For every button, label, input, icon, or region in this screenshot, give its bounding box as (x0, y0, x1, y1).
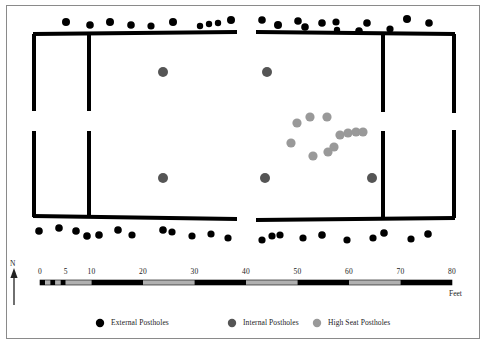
external-posthole-14 (318, 19, 326, 27)
scale-segment-7 (143, 280, 195, 285)
high-seat-posthole-1 (305, 112, 314, 121)
external-posthole-10 (258, 16, 266, 24)
scale-segment-9 (246, 280, 298, 285)
scale-tick-label-70: 70 (397, 267, 405, 276)
internal-posthole-4 (367, 173, 377, 183)
external-posthole-23 (55, 224, 63, 232)
external-posthole-29 (159, 226, 167, 234)
external-posthole-2 (106, 18, 114, 26)
external-posthole-0 (62, 18, 70, 26)
site-plan-figure: 051020304050607080 Feet N External Posth… (0, 0, 488, 345)
wall-bottom-wall-left (33, 216, 237, 219)
legend-symbol-0 (96, 319, 104, 327)
internal-posthole-3 (260, 173, 270, 183)
external-posthole-30 (168, 228, 175, 235)
external-posthole-6 (197, 23, 203, 29)
high-seat-posthole-0 (292, 118, 301, 127)
internal-postholes-layer (158, 67, 377, 183)
external-posthole-8 (215, 20, 221, 26)
external-posthole-40 (369, 234, 376, 241)
external-posthole-24 (72, 227, 80, 235)
scale-segment-8 (195, 280, 247, 285)
scale-segment-2 (50, 280, 55, 285)
external-posthole-36 (276, 231, 283, 238)
scale-tick-label-5: 5 (64, 267, 68, 276)
scale-units-label: Feet (449, 289, 462, 298)
north-arrow-head (10, 268, 17, 278)
internal-posthole-2 (262, 67, 272, 77)
external-postholes-layer (35, 15, 433, 244)
external-posthole-34 (258, 236, 265, 243)
external-posthole-32 (207, 230, 214, 237)
scale-segment-4 (61, 280, 66, 285)
scale-segment-11 (349, 280, 401, 285)
scale-segment-3 (55, 280, 60, 285)
scale-tick-label-60: 60 (345, 267, 353, 276)
high-seat-posthole-8 (343, 128, 352, 137)
external-posthole-22 (35, 227, 43, 235)
scale-tick-label-30: 30 (191, 267, 199, 276)
external-posthole-19 (386, 25, 393, 32)
scale-segment-1 (45, 280, 50, 285)
external-posthole-41 (380, 229, 388, 237)
external-posthole-25 (83, 232, 91, 240)
external-posthole-9 (227, 16, 235, 24)
external-posthole-38 (318, 231, 326, 239)
external-posthole-16 (334, 27, 340, 33)
high-seat-posthole-3 (286, 138, 295, 147)
external-posthole-42 (407, 235, 414, 242)
scale-tick-label-50: 50 (294, 267, 302, 276)
external-posthole-28 (128, 231, 135, 238)
scale-bar-graphic (40, 280, 452, 285)
external-posthole-17 (355, 27, 363, 35)
scale-tick-label-80: 80 (448, 267, 456, 276)
wall-top-wall-left (33, 32, 237, 34)
scale-tick-label-20: 20 (139, 267, 147, 276)
high-seat-posthole-6 (329, 142, 338, 151)
high-seat-postholes-layer (286, 112, 367, 160)
north-arrow-label: N (10, 259, 15, 268)
external-posthole-39 (343, 236, 350, 243)
scale-segment-0 (40, 280, 45, 285)
high-seat-posthole-10 (358, 127, 367, 136)
external-posthole-12 (294, 17, 302, 25)
scale-tick-label-40: 40 (242, 267, 250, 276)
legend-label-0: External Postholes (111, 318, 169, 327)
plan-drawing-canvas (0, 0, 488, 345)
external-posthole-33 (224, 234, 231, 241)
external-posthole-31 (188, 232, 195, 239)
legend-symbol-1 (228, 319, 236, 327)
scale-tick-label-10: 10 (88, 267, 96, 276)
scale-segment-12 (401, 280, 453, 285)
external-posthole-15 (332, 18, 339, 25)
internal-posthole-1 (158, 173, 168, 183)
external-posthole-4 (147, 22, 154, 29)
external-posthole-5 (169, 18, 177, 26)
legend-symbol-2 (313, 319, 321, 327)
external-posthole-35 (268, 232, 275, 239)
external-posthole-43 (424, 230, 432, 238)
external-posthole-11 (274, 21, 282, 29)
external-posthole-13 (301, 23, 309, 31)
scale-segment-6 (92, 280, 144, 285)
wall-bottom-wall-right (256, 218, 455, 220)
scale-tick-label-0: 0 (38, 267, 42, 276)
walls-layer (33, 32, 455, 220)
high-seat-posthole-2 (322, 112, 331, 121)
high-seat-posthole-7 (335, 130, 344, 139)
scale-segment-10 (298, 280, 350, 285)
internal-posthole-0 (158, 67, 168, 77)
north-arrow-graphic (10, 268, 17, 305)
scale-segment-5 (66, 280, 92, 285)
high-seat-posthole-4 (308, 151, 317, 160)
external-posthole-3 (127, 21, 135, 29)
external-posthole-1 (86, 21, 94, 29)
external-posthole-20 (403, 15, 411, 23)
external-posthole-7 (206, 21, 212, 27)
external-posthole-18 (363, 19, 371, 27)
external-posthole-37 (299, 234, 306, 241)
external-posthole-27 (114, 226, 122, 234)
external-posthole-21 (425, 19, 433, 27)
legend-label-1: Internal Postholes (243, 318, 299, 327)
legend-label-2: High Seat Postholes (328, 318, 390, 327)
